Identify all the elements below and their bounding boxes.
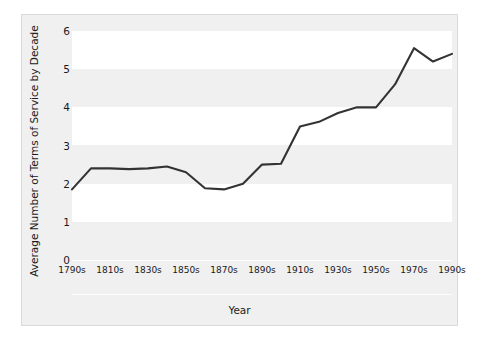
x-tick-label: 1830s: [134, 266, 162, 275]
y-axis-ticks: 0123456: [48, 0, 70, 343]
y-tick-label: 3: [63, 141, 70, 152]
y-tick-label: 1: [63, 217, 70, 228]
x-axis-title-text: Year: [228, 304, 250, 316]
x-tick-label: 1930s: [324, 266, 352, 275]
x-axis-ticks: 1790s1810s1830s1850s1870s1890s1910s1930s…: [0, 266, 479, 280]
y-tick-label: 5: [63, 64, 70, 75]
x-tick-label: 1950s: [362, 266, 390, 275]
y-axis-title-text: Average Number of Terms of Service by De…: [28, 25, 40, 276]
y-tick-label: 6: [63, 26, 70, 37]
y-tick-label: 2: [63, 179, 70, 190]
x-tick-label: 1790s: [58, 266, 86, 275]
chart-figure: Average Number of Terms of Service by De…: [0, 0, 479, 343]
x-axis-title: Year: [0, 304, 479, 316]
x-tick-label: 1810s: [96, 266, 124, 275]
x-tick-label: 1890s: [248, 266, 276, 275]
x-tick-label: 1870s: [210, 266, 238, 275]
series-polyline: [72, 48, 452, 189]
data-line-series: [72, 31, 452, 260]
x-tick-label: 1970s: [400, 266, 428, 275]
y-tick-label: 0: [63, 255, 70, 266]
x-axis-line: [72, 260, 452, 261]
x-axis-rule-lower: [72, 294, 452, 295]
y-tick-label: 4: [63, 102, 70, 113]
y-axis-title: Average Number of Terms of Service by De…: [26, 22, 42, 280]
x-tick-label: 1910s: [286, 266, 314, 275]
x-tick-label: 1990s: [438, 266, 466, 275]
x-tick-label: 1850s: [172, 266, 200, 275]
plot-area: [72, 31, 452, 260]
